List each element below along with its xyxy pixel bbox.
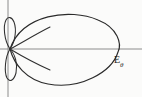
antenna-radiation-pattern-figure: Eθ [0,0,142,97]
radiation-pattern-plot [0,0,142,97]
main-lobe-curve [10,14,119,85]
upper-back-lobe-curve [4,18,15,49]
e-theta-axis-label: Eθ [114,55,124,68]
e-theta-subscript: θ [120,61,123,69]
